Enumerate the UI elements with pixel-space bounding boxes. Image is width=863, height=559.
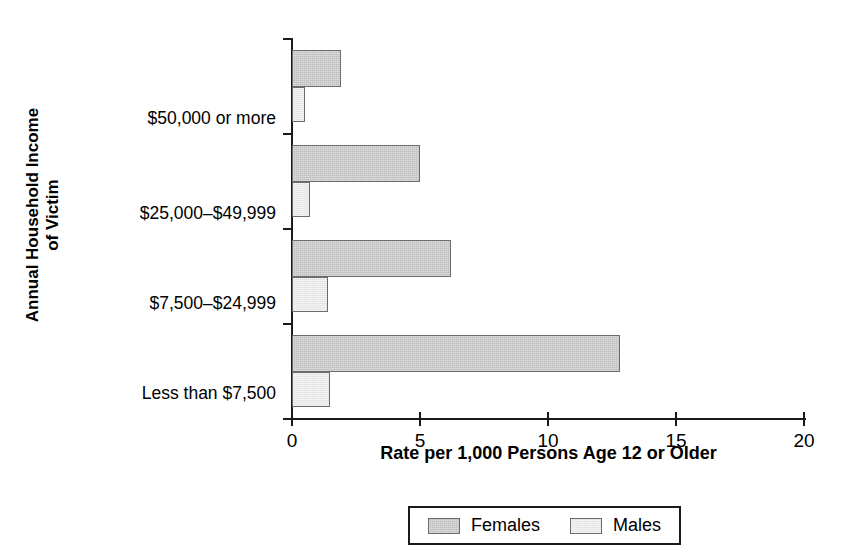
y-axis-title: Annual Household Income of Victim (0, 0, 86, 430)
x-axis-title: Rate per 1,000 Persons Age 12 or Older (291, 443, 806, 464)
legend-label-males: Males (613, 515, 661, 536)
category-label-1: $25,000–$49,999 (92, 203, 276, 224)
plot-area: 0 5 10 15 20 (291, 38, 806, 418)
y-axis-tick-1 (283, 133, 292, 135)
bar-females-50000-or-more[interactable] (292, 50, 341, 87)
legend-item-males[interactable]: Males (570, 515, 661, 536)
bar-females-less-than-7500[interactable] (292, 335, 620, 372)
legend-swatch-males-icon (570, 518, 602, 534)
x-axis-tick-10 (547, 412, 549, 426)
x-axis-tick-15 (675, 412, 677, 426)
bar-males-less-than-7500[interactable] (292, 372, 330, 407)
y-axis-tick-top (283, 38, 292, 40)
y-axis-title-line-1: Annual Household Income (23, 108, 43, 322)
legend-item-females[interactable]: Females (428, 515, 540, 536)
category-label-0: $50,000 or more (92, 108, 276, 129)
legend-swatch-females-icon (428, 518, 460, 534)
category-label-3: Less than $7,500 (92, 383, 276, 404)
y-axis-tick-2 (283, 228, 292, 230)
bar-females-7500-24999[interactable] (292, 240, 451, 277)
x-axis-tick-5 (419, 412, 421, 426)
bar-males-7500-24999[interactable] (292, 277, 328, 312)
bar-males-25000-49999[interactable] (292, 182, 310, 217)
y-axis-tick-3 (283, 323, 292, 325)
category-label-group: $50,000 or more $25,000–$49,999 $7,500–$… (92, 38, 276, 418)
legend: Females Males (408, 506, 681, 545)
bar-females-25000-49999[interactable] (292, 145, 420, 182)
category-label-2: $7,500–$24,999 (92, 293, 276, 314)
x-axis-tick-20 (803, 412, 805, 426)
y-axis-title-line-2: of Victim (43, 108, 63, 322)
bar-males-50000-or-more[interactable] (292, 87, 305, 122)
legend-label-females: Females (471, 515, 540, 536)
chart-page: Annual Household Income of Victim $50,00… (0, 0, 863, 559)
x-axis-tick-0 (291, 412, 293, 426)
